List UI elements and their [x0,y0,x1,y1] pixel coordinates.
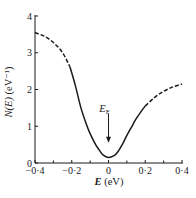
figure-caption: … [0,192,196,198]
x-tick-label: 0 [106,165,111,176]
x-tick-label: 0·4 [175,165,188,176]
x-axis-label: E (eV) [94,176,124,188]
x-tick-label: 0·2 [139,165,152,176]
dashed-curve [145,84,182,106]
y-tick-label: 0 [27,158,32,169]
y-axis-label: N(E) (eV⁻¹) [3,66,15,118]
density-of-states-chart: −0·4−0·200·20·401234 EF E (eV) N(E) (eV⁻… [0,0,196,198]
axes: −0·4−0·200·20·401234 [26,11,189,177]
fermi-annotation: EF [98,103,111,143]
dashed-curve [35,33,70,67]
y-tick-label: 3 [27,47,32,58]
arrow-down-icon [106,137,111,143]
y-tick-label: 2 [27,84,32,95]
y-tick-label: 1 [27,121,32,132]
x-tick-label: −0·2 [62,165,81,176]
y-tick-label: 4 [27,11,32,22]
